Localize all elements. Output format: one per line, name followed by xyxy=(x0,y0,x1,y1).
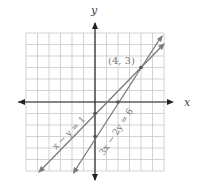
line1-equation-label: x − y = 1 xyxy=(50,114,87,151)
y-axis-label: y xyxy=(90,4,98,17)
coordinate-graph: y x (4, 3) x − y = 1 3x − 2y = 6 xyxy=(0,0,197,188)
x-axis-left-arrow-icon xyxy=(18,99,25,105)
y-axis-down-arrow-icon xyxy=(92,174,98,181)
point-y-intercept-line1 xyxy=(93,112,97,116)
intersection-label: (4, 3) xyxy=(108,55,135,66)
y-axis-up-arrow-icon xyxy=(92,22,98,29)
point-intersection xyxy=(139,66,143,70)
x-axis-label: x xyxy=(184,96,191,109)
point-x-intercept-line2 xyxy=(116,100,120,104)
x-axis-right-arrow-icon xyxy=(167,99,174,105)
point-y-intercept-line2 xyxy=(93,135,97,139)
